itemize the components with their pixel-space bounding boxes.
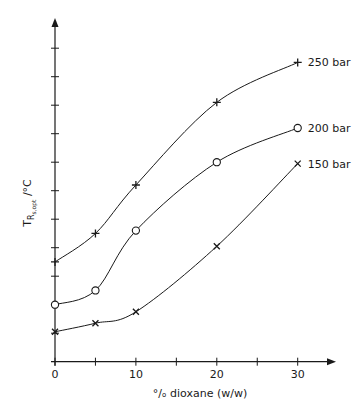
x-tick-label: 0 xyxy=(52,368,59,381)
cross-marker-icon xyxy=(214,243,220,249)
x-tick-label: 20 xyxy=(210,368,224,381)
x-axis-title: °/ₒ dioxane (w/w) xyxy=(153,387,247,400)
y-title-subsub: s,opt xyxy=(30,199,38,215)
x-axis-arrow-icon xyxy=(327,358,336,365)
y-title-unit: /°C xyxy=(21,179,34,200)
series-labels: 250 bar200 bar150 bar xyxy=(308,56,351,170)
series-label: 250 bar xyxy=(308,56,351,69)
series-markers xyxy=(51,58,302,334)
x-tick-label: 30 xyxy=(291,368,305,381)
series-curve xyxy=(55,164,298,332)
series-label: 150 bar xyxy=(308,158,351,171)
y-axis xyxy=(51,18,59,366)
circle-marker-icon xyxy=(294,124,301,131)
plus-marker-icon xyxy=(294,58,302,66)
line-chart: 0102030 250 bar200 bar150 bar °/ₒ dioxan… xyxy=(0,0,363,415)
circle-marker-icon xyxy=(132,227,139,234)
circle-marker-icon xyxy=(51,301,58,308)
series-curve xyxy=(55,62,298,262)
plus-marker-icon xyxy=(51,258,59,266)
cross-marker-icon xyxy=(295,161,301,167)
x-axis: 0102030 xyxy=(51,358,336,381)
cross-marker-icon xyxy=(133,309,139,315)
svg-text:TRs,opt /°C: TRs,opt /°C xyxy=(21,179,38,228)
y-axis-arrow-icon xyxy=(52,18,59,27)
series-label: 200 bar xyxy=(308,122,351,135)
series-curve xyxy=(55,128,298,305)
x-tick-label: 10 xyxy=(129,368,143,381)
y-axis-title: TRs,opt /°C xyxy=(21,179,38,228)
circle-marker-icon xyxy=(213,159,220,166)
circle-marker-icon xyxy=(92,287,99,294)
